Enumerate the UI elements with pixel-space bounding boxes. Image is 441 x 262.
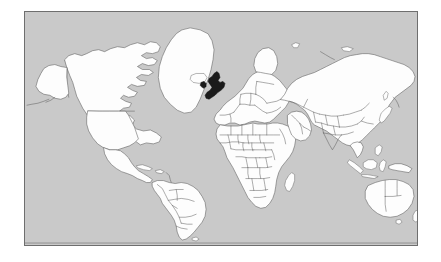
landmass-borneo	[363, 160, 377, 170]
page-root	[0, 0, 441, 262]
world-map-svg	[25, 12, 417, 245]
world-map-frame	[24, 11, 418, 246]
